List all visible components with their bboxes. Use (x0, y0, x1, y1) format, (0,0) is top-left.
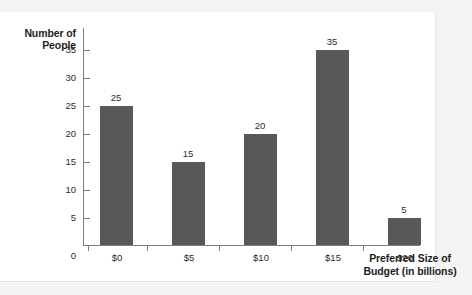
x-tick-0 (88, 246, 89, 251)
x-tick-1 (147, 246, 148, 251)
y-tick-label-20: 20 (44, 129, 76, 139)
x-tick-2 (219, 246, 220, 251)
y-tick-5 (84, 218, 90, 219)
page-root: Number of People 35 30 25 20 15 10 5 0 2… (0, 0, 472, 295)
bar-3 (316, 50, 349, 245)
y-tick-label-10: 10 (44, 185, 76, 195)
y-tick-label-30: 30 (44, 73, 76, 83)
x-tick-4 (363, 246, 364, 251)
bar-value-label-2: 20 (240, 121, 280, 131)
x-tick-3 (291, 246, 292, 251)
x-axis-title-line-1: Preferred Size of (352, 252, 468, 265)
bar-0 (100, 106, 133, 245)
x-axis-title: Preferred Size of Budget (in billions) (352, 252, 468, 277)
y-tick-10 (84, 190, 90, 191)
y-tick-20 (84, 134, 90, 135)
x-axis-title-line-2: Budget (in billions) (352, 265, 468, 278)
bar-value-label-3: 35 (312, 37, 352, 47)
x-axis-line (83, 245, 420, 246)
y-tick-15 (84, 162, 90, 163)
bar-4 (388, 218, 421, 245)
y-tick-25 (84, 106, 90, 107)
y-tick-35 (84, 50, 90, 51)
y-axis-line (83, 28, 84, 246)
y-tick-30 (84, 78, 90, 79)
x-tick-label-2: $10 (236, 252, 286, 263)
y-tick-label-35: 35 (44, 45, 76, 55)
bar-value-label-4: 5 (384, 205, 424, 215)
bar-1 (172, 162, 205, 245)
x-tick-label-1: $5 (164, 252, 214, 263)
y-tick-label-25: 25 (44, 101, 76, 111)
y-tick-label-0: 0 (44, 251, 76, 261)
y-tick-label-15: 15 (44, 157, 76, 167)
bar-chart: Number of People 35 30 25 20 15 10 5 0 2… (0, 0, 472, 295)
y-tick-label-5: 5 (44, 213, 76, 223)
bar-2 (244, 134, 277, 245)
bar-value-label-0: 25 (96, 93, 136, 103)
bar-value-label-1: 15 (168, 149, 208, 159)
x-tick-label-3: $15 (308, 252, 358, 263)
y-axis-title-line-1: Number of (8, 27, 76, 39)
x-tick-label-0: $0 (92, 252, 142, 263)
